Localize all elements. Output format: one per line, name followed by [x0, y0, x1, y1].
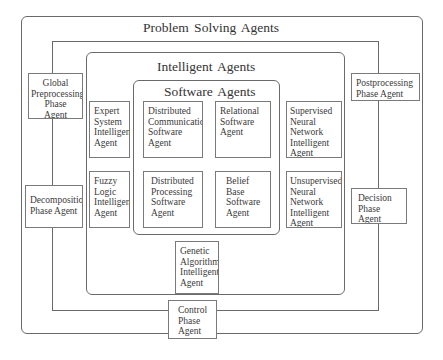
global-preprocessing-phase-agent: Global Preprocessing Phase Agent: [28, 73, 83, 119]
unsupervised-neural-network-intelligent-agent: Unsupervised Neural Network Intelligent …: [286, 171, 342, 228]
expert-system-intelligent-agent: Expert System Intelligent Agent: [89, 101, 130, 158]
relational-software-agent: Relational Software Agent: [215, 101, 271, 158]
control-phase-agent: Control Phase Agent: [168, 300, 217, 339]
intelligent-agents-title: Intelligent Agents: [157, 59, 255, 75]
fuzzy-logic-intelligent-agent: Fuzzy Logic Intelligent Agent: [89, 171, 130, 228]
decision-phase-agent: Decision Phase Agent: [351, 188, 407, 224]
postprocessing-phase-agent: Postprocessing Phase Agent: [351, 73, 420, 101]
decomposition-phase-agent: Decomposition Phase Agent: [25, 185, 83, 228]
supervised-neural-network-intelligent-agent: Supervised Neural Network Intelligent Ag…: [286, 101, 342, 158]
belief-base-software-agent: Belief Base Software Agent: [215, 171, 271, 228]
software-agents-title: Software Agents: [164, 84, 256, 100]
distributed-processing-software-agent: Distributed Processing Software Agent: [143, 171, 203, 228]
genetic-algorithm-intelligent-agent: Genetic Algorithm Intelligent Agent: [175, 241, 219, 294]
problem-solving-agents-title: Problem Solving Agents: [143, 20, 279, 36]
distributed-communication-software-agent: Distributed Communication Software Agent: [143, 101, 203, 158]
